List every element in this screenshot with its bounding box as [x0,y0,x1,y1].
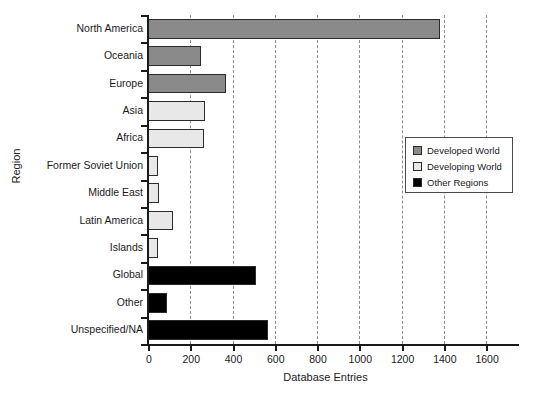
x-axis-tick [275,344,277,351]
legend-label: Developing World [427,162,502,172]
bar [148,74,226,94]
y-axis-tick-label: Global [3,269,143,280]
y-axis-tick-label: Former Soviet Union [3,160,143,171]
x-axis-tick [402,344,404,351]
x-axis-title: Database Entries [148,371,503,383]
bar-row [148,46,503,66]
bar-row [148,238,503,258]
bar [148,211,173,231]
legend-swatch-icon [413,146,422,155]
x-axis-tick [317,344,319,351]
y-axis-tick-label: Africa [3,132,143,143]
legend-swatch-icon [413,178,422,187]
x-axis-tick-label: 1600 [457,353,517,365]
bar [148,156,158,176]
bar [148,19,440,39]
y-axis-tick-label: Unspecified/NA [3,324,143,335]
legend-label: Other Regions [427,178,488,188]
bar-row [148,320,503,340]
y-axis-tick-label: Oceania [3,50,143,61]
bar-row [148,266,503,286]
bar [148,183,159,203]
y-axis-tick-label: Asia [3,105,143,116]
y-axis-tick-label: North America [3,23,143,34]
bar-row [148,293,503,313]
bar-row [148,19,503,39]
x-axis-tick [148,344,150,351]
bar [148,320,268,340]
x-axis-tick [486,344,488,351]
bar [148,46,201,66]
bar-row [148,74,503,94]
x-axis-tick [444,344,446,351]
bar-row [148,211,503,231]
x-axis-tick [233,344,235,351]
bar [148,266,256,286]
y-axis-tick-label: Latin America [3,215,143,226]
legend-item: Developing World [413,159,512,174]
x-axis-line [147,344,519,346]
x-axis-tick [359,344,361,351]
bar [148,101,205,121]
bar-chart: North AmericaOceaniaEuropeAsiaAfricaForm… [0,0,538,400]
y-axis-tick-label: Europe [3,78,143,89]
y-axis-tick-label: Middle East [3,187,143,198]
y-axis-tick-label: Islands [3,242,143,253]
bar [148,293,167,313]
legend-item: Developed World [413,143,512,158]
legend-swatch-icon [413,162,422,171]
y-axis-tick-label: Other [3,297,143,308]
legend-label: Developed World [427,146,500,156]
bar [148,238,158,258]
x-axis-tick [190,344,192,351]
bar-row [148,101,503,121]
y-axis-title: Region [10,126,22,206]
legend: Developed WorldDeveloping WorldOther Reg… [405,137,513,193]
bar [148,129,204,149]
legend-item: Other Regions [413,175,512,190]
